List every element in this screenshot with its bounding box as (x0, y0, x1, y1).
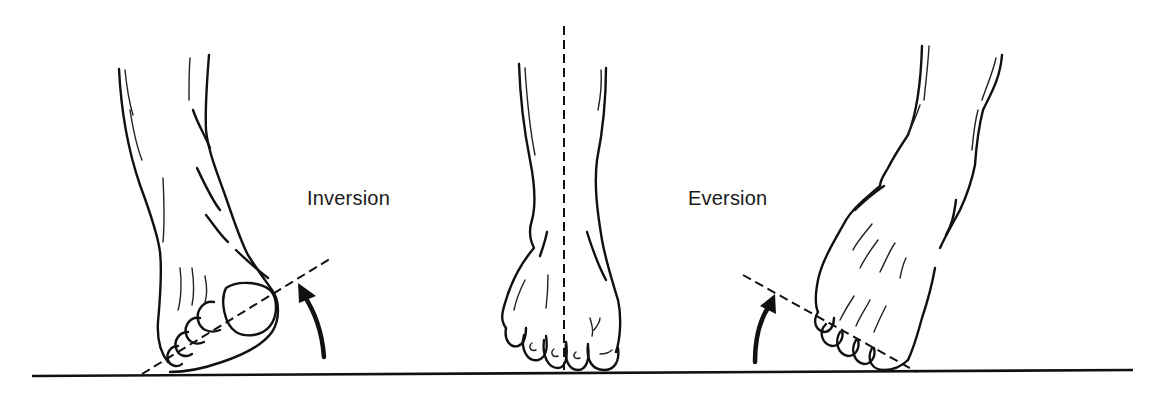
inverted-foot-leg-left (119, 69, 168, 362)
everted-foot-heel (908, 268, 935, 360)
inverted-foot-tendon-3 (205, 276, 207, 302)
neutral-foot-leg-shade-2 (598, 70, 601, 110)
inverted-foot-toe-2 (198, 302, 220, 332)
everted-foot-leg-shade-2 (972, 58, 996, 150)
everted-foot-ankle (946, 200, 956, 235)
everted-foot-toe-5 (815, 312, 834, 332)
diagram-canvas (0, 0, 1162, 394)
inverted-foot-ankle-shade (163, 178, 164, 242)
inverted-foot-tendon-1 (178, 268, 181, 310)
neutral-foot-ankle-left (540, 232, 547, 256)
neutral-foot (502, 26, 620, 370)
eversion-label: Eversion (688, 187, 767, 210)
everted-foot (743, 46, 1002, 372)
everted-foot-toe-clefts (840, 296, 886, 332)
neutral-foot-nail-4 (530, 343, 536, 350)
everted-foot-tendon-3 (880, 243, 895, 272)
inverted-foot-big-toe (223, 283, 276, 335)
inverted-foot-dorsum (206, 215, 228, 242)
neutral-foot-tendon (546, 275, 548, 308)
inverted-foot (119, 55, 333, 374)
inverted-foot-ankle-line (193, 110, 210, 148)
neutral-foot-toe-cleft (590, 318, 600, 336)
everted-foot-tendon-4 (900, 258, 906, 278)
everted-foot-leg-left (816, 46, 922, 312)
neutral-foot-leg-right (596, 68, 620, 352)
inverted-foot-leg-shade (125, 70, 133, 115)
neutral-foot-nail-1 (600, 350, 612, 354)
everted-foot-dorsum (855, 186, 884, 210)
neutral-foot-ankle-right (587, 232, 606, 280)
inverted-foot-leg-shade-2 (130, 110, 142, 160)
neutral-foot-big-toe (588, 344, 619, 370)
inversion-arrow (303, 294, 324, 357)
ground-line (32, 370, 1133, 376)
neutral-foot-nail-2 (574, 352, 580, 358)
inverted-foot-tendon-2 (192, 268, 194, 305)
neutral-foot-tendon-2 (514, 280, 525, 310)
neutral-foot-nail-3 (552, 349, 558, 356)
everted-foot-leg-right (940, 55, 1002, 248)
everted-foot-tendon-2 (860, 240, 878, 268)
inverted-foot-leg-shade-3 (189, 58, 190, 100)
neutral-foot-toe-2 (566, 344, 589, 370)
eversion-arrow (755, 306, 769, 362)
inverted-foot-toe-3 (186, 318, 204, 344)
everted-foot-axis-line (743, 275, 917, 372)
everted-foot-tendon-1 (853, 224, 872, 250)
neutral-foot-leg-left (502, 64, 534, 328)
inverted-foot-dorsum-2 (236, 250, 268, 278)
inverted-foot-leg-right (206, 55, 272, 290)
inversion-label: Inversion (307, 187, 390, 210)
